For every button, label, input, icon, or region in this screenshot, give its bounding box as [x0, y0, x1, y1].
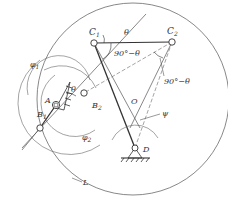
mechanism-diagram: C1 C2 A B1 B2 O D L θ 90°−θ 90°−θ θ ψ φ1…	[0, 0, 228, 204]
c1-d-link	[94, 43, 135, 148]
label-phi2: φ2	[82, 133, 92, 143]
label-psi: ψ	[162, 109, 169, 118]
label-c1-angle: 90°−θ	[114, 49, 140, 58]
label-A: A	[44, 96, 51, 105]
joint-C2	[169, 39, 175, 45]
crank-ext	[22, 128, 40, 150]
L-leader	[72, 178, 82, 182]
c2-angle-arc	[154, 52, 163, 58]
label-D: D	[142, 145, 150, 154]
label-L: L	[82, 178, 88, 187]
joint-A-inner	[54, 103, 58, 107]
label-C2: C2	[167, 26, 178, 37]
label-O: O	[131, 97, 138, 106]
theta-arc-top	[103, 35, 104, 43]
label-c2-angle: 90°−θ	[164, 77, 190, 86]
label-B1: B1	[36, 110, 47, 120]
label-theta-A: θ	[71, 85, 76, 94]
joint-B2	[81, 90, 87, 96]
joint-B1	[37, 125, 43, 131]
label-C1: C1	[89, 27, 100, 38]
psi-leader	[140, 114, 160, 120]
label-theta-top: θ	[124, 28, 129, 37]
c1-c2-line	[94, 42, 172, 43]
joint-D	[132, 145, 138, 151]
label-B2: B2	[91, 101, 102, 111]
psi-arc	[112, 125, 158, 140]
joint-C1	[91, 40, 97, 46]
